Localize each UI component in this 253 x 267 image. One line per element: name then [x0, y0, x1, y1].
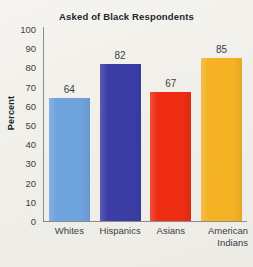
bar-value-label: 85 [216, 44, 227, 55]
bar[interactable] [100, 64, 141, 221]
bar-chart-figure: Asked of Black Respondents 1009080706050… [0, 0, 253, 267]
bar-group[interactable]: 64 [49, 29, 90, 221]
bar-value-label: 67 [165, 78, 176, 89]
y-axis-tick-10: 10 [0, 196, 40, 207]
y-axis-tick-0: 0 [0, 216, 40, 227]
x-axis-label-hispanics: Hispanics [92, 225, 149, 237]
y-axis-tick-20: 20 [0, 177, 40, 188]
y-axis-tick-30: 30 [0, 158, 40, 169]
x-axis-label-whites: Whites [41, 225, 98, 237]
x-axis-label-american-indians: American Indians [193, 225, 250, 248]
y-axis-tick-80: 80 [0, 62, 40, 73]
x-axis-line [43, 221, 247, 222]
plot-area: 64826785 [44, 29, 247, 221]
bar-value-label: 82 [115, 50, 126, 61]
y-axis-title: Percent [6, 83, 16, 143]
bar-group[interactable]: 82 [100, 29, 141, 221]
y-axis-tick-100: 100 [0, 24, 40, 35]
x-axis-label-asians: Asians [143, 225, 200, 237]
bar[interactable] [150, 92, 191, 221]
bar-value-label: 64 [64, 84, 75, 95]
bar-group[interactable]: 67 [150, 29, 191, 221]
bar[interactable] [201, 58, 242, 221]
bar[interactable] [49, 98, 90, 221]
y-axis-tick-90: 90 [0, 43, 40, 54]
bar-group[interactable]: 85 [201, 29, 242, 221]
